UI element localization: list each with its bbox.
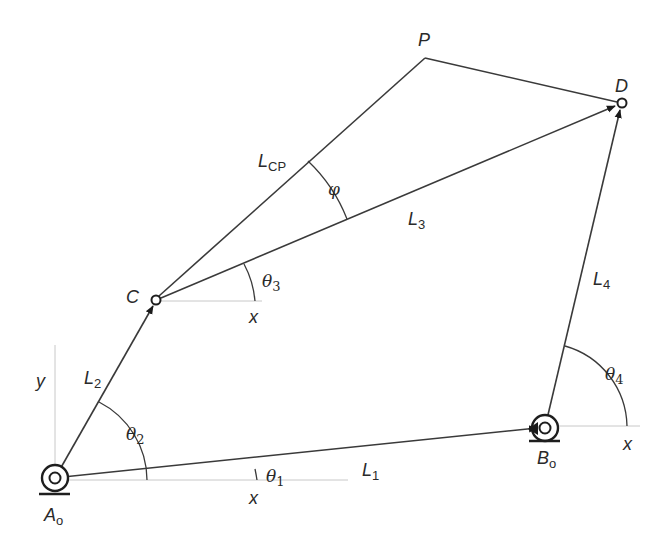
link-pd [425, 58, 617, 102]
label-a0: Ao [43, 505, 63, 528]
four-bar-linkage-diagram: Ao Bo C D P L1 L2 L3 L4 LCP θ1 θ2 θ3 θ4 … [0, 0, 668, 552]
label-lcp: LCP [258, 151, 286, 174]
labels: Ao Bo C D P L1 L2 L3 L4 LCP θ1 θ2 θ3 θ4 … [34, 30, 633, 528]
label-phi: φ [328, 179, 340, 199]
label-theta2: θ2 [126, 424, 145, 447]
label-theta3: θ3 [262, 271, 281, 294]
theta3-arc [244, 264, 255, 301]
label-d: D [615, 76, 628, 96]
label-l3: L3 [408, 209, 425, 232]
links [59, 58, 620, 477]
link-lcp [159, 58, 425, 296]
theta1-arc [255, 469, 257, 480]
label-l1: L1 [362, 460, 379, 483]
ground-pivot-b0 [528, 415, 560, 441]
label-b0: Bo [537, 448, 556, 471]
joint-c [152, 296, 161, 305]
ground-pivot-a0 [39, 465, 70, 494]
joint-d [618, 99, 627, 108]
label-l4: L4 [593, 269, 610, 292]
label-theta4: θ4 [605, 364, 624, 387]
label-x-axis-a0: x [248, 488, 259, 508]
label-x-axis-b0: x [622, 434, 633, 454]
link-l3 [161, 106, 615, 298]
label-p: P [418, 30, 430, 50]
label-l2: L2 [84, 368, 101, 391]
label-theta1: θ1 [266, 466, 285, 489]
label-y-axis: y [34, 371, 46, 391]
label-c: C [126, 287, 140, 307]
label-x-axis-c: x [248, 307, 259, 327]
